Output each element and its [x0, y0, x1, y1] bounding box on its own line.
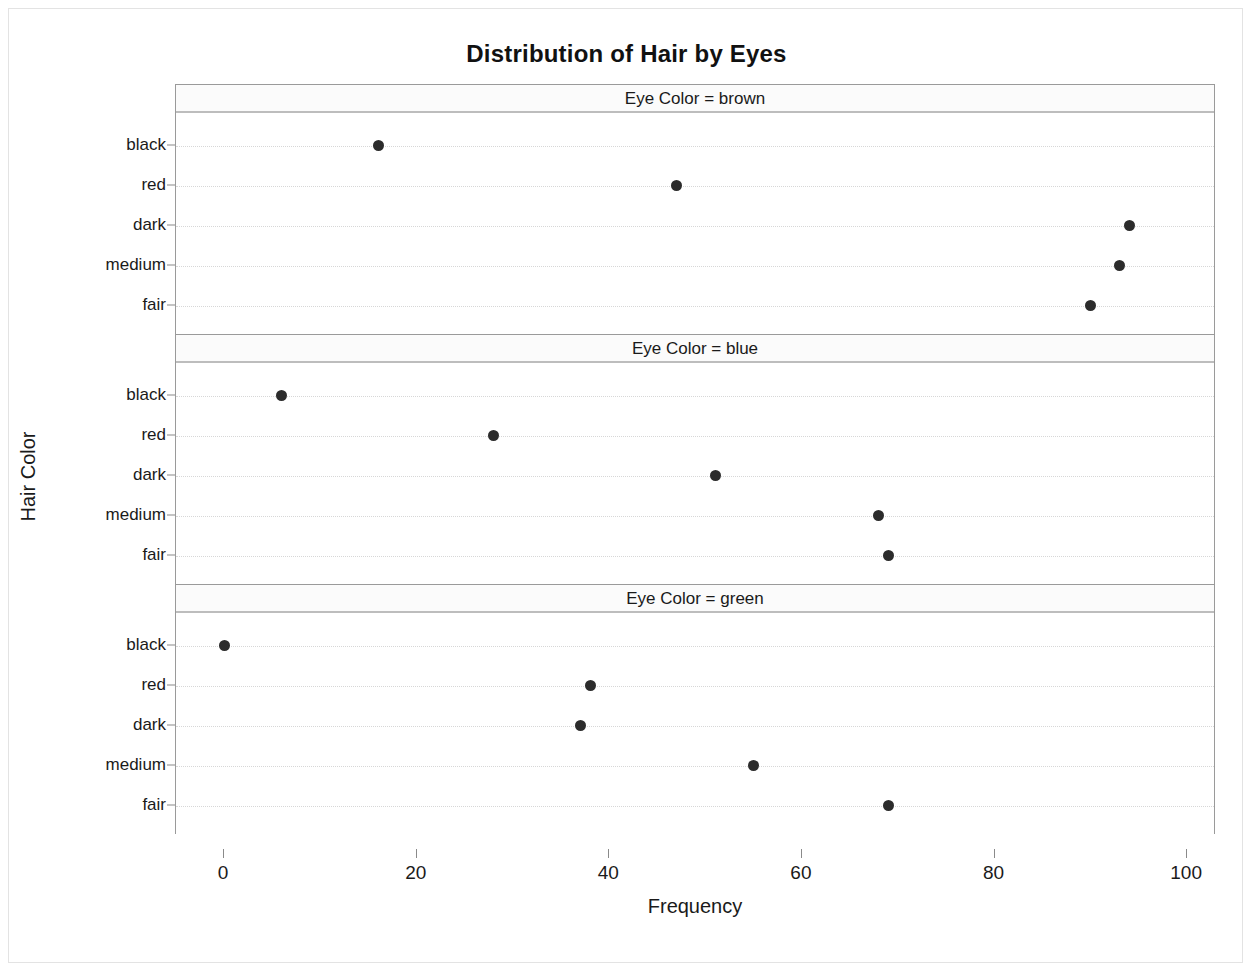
data-point — [748, 760, 759, 771]
plot-area-green — [176, 613, 1214, 835]
y-tick-mark — [167, 554, 175, 555]
data-point — [1124, 220, 1135, 231]
x-tick-label-0: 0 — [218, 862, 229, 884]
x-tick-mark — [223, 849, 224, 858]
data-point — [575, 720, 586, 731]
gridline-black — [176, 396, 1214, 397]
x-axis-title: Frequency — [175, 895, 1215, 918]
plot-area-blue — [176, 363, 1214, 585]
x-tick-label-20: 20 — [405, 862, 426, 884]
data-point — [710, 470, 721, 481]
y-tick-mark — [167, 514, 175, 515]
gridline-red — [176, 186, 1214, 187]
y-tick-mark — [167, 224, 175, 225]
data-point — [1114, 260, 1125, 271]
gridline-black — [176, 646, 1214, 647]
panel-blue: Eye Color = blue — [175, 334, 1215, 584]
y-tick-label-medium: medium — [106, 505, 175, 525]
gridline-red — [176, 436, 1214, 437]
data-point — [488, 430, 499, 441]
plot-area-brown — [176, 113, 1214, 335]
x-tick-mark — [994, 849, 995, 858]
panel-brown: Eye Color = brown — [175, 84, 1215, 334]
y-tick-mark — [167, 804, 175, 805]
data-point — [883, 800, 894, 811]
y-tick-mark — [167, 644, 175, 645]
data-point — [219, 640, 230, 651]
x-tick-label-80: 80 — [983, 862, 1004, 884]
y-tick-labels-green: blackreddarkmediumfair — [0, 612, 175, 834]
gridline-fair — [176, 806, 1214, 807]
y-tick-mark — [167, 764, 175, 765]
data-point — [883, 550, 894, 561]
y-tick-labels-blue: blackreddarkmediumfair — [0, 362, 175, 584]
gridline-red — [176, 686, 1214, 687]
chart-page: Distribution of Hair by Eyes Eye Color =… — [0, 0, 1253, 977]
data-point — [671, 180, 682, 191]
page-title: Distribution of Hair by Eyes — [0, 40, 1253, 68]
y-tick-mark — [167, 474, 175, 475]
gridline-black — [176, 146, 1214, 147]
y-tick-mark — [167, 144, 175, 145]
y-tick-mark — [167, 184, 175, 185]
data-point — [873, 510, 884, 521]
y-tick-mark — [167, 264, 175, 265]
y-tick-labels-brown: blackreddarkmediumfair — [0, 112, 175, 334]
x-tick-label-100: 100 — [1170, 862, 1202, 884]
data-point — [373, 140, 384, 151]
panel-header-brown: Eye Color = brown — [176, 85, 1214, 113]
y-tick-label-medium: medium — [106, 755, 175, 775]
data-point — [585, 680, 596, 691]
data-point — [1085, 300, 1096, 311]
gridline-dark — [176, 476, 1214, 477]
panel-green: Eye Color = green — [175, 584, 1215, 834]
gridline-fair — [176, 556, 1214, 557]
panel-header-blue: Eye Color = blue — [176, 335, 1214, 363]
y-tick-mark — [167, 434, 175, 435]
x-tick-label-60: 60 — [790, 862, 811, 884]
y-tick-mark — [167, 304, 175, 305]
x-axis: 020406080100 — [175, 849, 1215, 850]
gridline-dark — [176, 226, 1214, 227]
y-tick-mark — [167, 684, 175, 685]
x-tick-mark — [416, 849, 417, 858]
gridline-dark — [176, 726, 1214, 727]
gridline-medium — [176, 516, 1214, 517]
x-tick-mark — [801, 849, 802, 858]
panel-header-green: Eye Color = green — [176, 585, 1214, 613]
y-tick-mark — [167, 394, 175, 395]
y-tick-mark — [167, 724, 175, 725]
gridline-medium — [176, 766, 1214, 767]
x-tick-mark — [1186, 849, 1187, 858]
y-tick-label-medium: medium — [106, 255, 175, 275]
gridline-medium — [176, 266, 1214, 267]
x-tick-mark — [608, 849, 609, 858]
gridline-fair — [176, 306, 1214, 307]
data-point — [276, 390, 287, 401]
x-tick-label-40: 40 — [598, 862, 619, 884]
